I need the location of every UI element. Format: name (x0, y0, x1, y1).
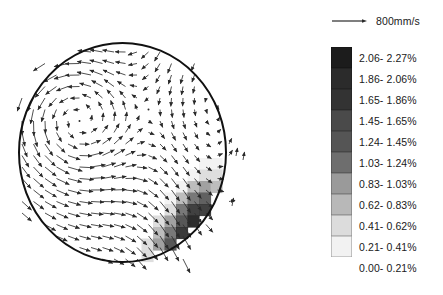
velocity-vector (114, 124, 119, 133)
velocity-vector (195, 167, 201, 174)
velocity-vector (137, 202, 148, 208)
velocity-vector (86, 105, 91, 110)
velocity-vector (115, 62, 125, 64)
velocity-vector (243, 152, 245, 160)
velocity-vector (126, 151, 136, 155)
velocity-vector (68, 179, 82, 183)
velocity-vector (45, 133, 49, 145)
velocity-vector (126, 248, 136, 255)
velocity-vector (206, 179, 212, 184)
legend-color-swatch (331, 68, 352, 89)
velocity-vector (95, 91, 103, 98)
legend-range-label: 0.83- 1.03% (359, 178, 417, 190)
velocity-vector (195, 179, 201, 187)
velocity-vector (141, 52, 148, 59)
velocity-vector (218, 141, 222, 144)
legend-row: 0.83- 1.03% (331, 173, 417, 194)
velocity-vector (103, 189, 116, 190)
velocity-vector (91, 236, 102, 239)
velocity-vector (57, 133, 62, 142)
velocity-vector (232, 198, 234, 206)
velocity-vector (183, 213, 191, 225)
velocity-vector (149, 167, 158, 172)
velocity-vector (192, 75, 195, 82)
velocity-vector (116, 72, 126, 75)
velocity-vector (59, 98, 68, 103)
velocity-vector (195, 156, 200, 162)
velocity-vector (145, 98, 149, 101)
velocity-vector (160, 133, 165, 139)
velocity-vector (137, 248, 147, 258)
legend-row: 0.21- 0.41% (331, 236, 417, 257)
velocity-vector (45, 202, 56, 209)
velocity-vector (182, 87, 184, 95)
velocity-vector (128, 64, 137, 66)
velocity-vector (130, 85, 137, 87)
velocity-vector (104, 79, 114, 86)
velocity-vector (126, 138, 134, 144)
velocity-vector (206, 225, 213, 233)
legend-row: 0.62- 0.83% (331, 194, 417, 215)
velocity-vector (148, 109, 150, 111)
velocity-vector (137, 225, 147, 233)
velocity-vector (90, 70, 103, 75)
velocity-vector (91, 152, 103, 155)
velocity-vector (183, 190, 190, 200)
velocity-vector (91, 248, 102, 251)
arrow-group (17, 50, 244, 273)
velocity-vector (137, 179, 148, 182)
velocity-vector (45, 190, 57, 197)
velocity-vector (218, 117, 220, 121)
velocity-vector (195, 144, 200, 150)
pipe-boundary-circle (19, 43, 226, 262)
velocity-vector (195, 213, 202, 223)
velocity-vector (57, 167, 70, 174)
velocity-vector (137, 236, 147, 245)
velocity-vector (22, 167, 30, 178)
velocity-vector (91, 115, 92, 121)
velocity-vector (117, 81, 125, 86)
velocity-vector (183, 202, 191, 213)
velocity-vector (34, 190, 44, 198)
velocity-vector (80, 225, 92, 228)
velocity-vector (126, 236, 137, 242)
legend-color-swatch (331, 131, 352, 152)
velocity-vector (80, 83, 92, 86)
velocity-vector (126, 112, 127, 121)
legend-range-label: 2.06- 2.27% (359, 52, 417, 64)
velocity-vector (34, 167, 44, 177)
velocity-vector (160, 121, 163, 127)
velocity-vector (172, 190, 180, 201)
velocity-vector (103, 213, 115, 214)
velocity-vector (206, 156, 211, 159)
velocity-vector (17, 98, 22, 111)
velocity-vector (158, 98, 160, 105)
velocity-vector (82, 94, 91, 98)
velocity-vector (137, 155, 146, 156)
velocity-vector (33, 64, 45, 71)
legend-color-swatch (331, 236, 352, 257)
velocity-vector (45, 144, 53, 156)
velocity-vector (160, 156, 167, 163)
velocity-vector (149, 213, 159, 223)
legend-color-swatch (331, 47, 352, 68)
velocity-vector (183, 259, 190, 273)
velocity-vector (42, 110, 46, 122)
legend-row: 2.06- 2.27% (331, 47, 417, 68)
velocity-vector (229, 200, 235, 201)
vector-field-overlay (0, 0, 300, 295)
velocity-vector (114, 202, 126, 203)
velocity-vector (114, 213, 126, 215)
velocity-vector (137, 128, 143, 132)
velocity-vector (114, 236, 125, 240)
velocity-vector (80, 248, 91, 252)
legend-range-label: 0.00- 0.21% (359, 262, 417, 274)
velocity-vector (160, 213, 169, 225)
legend-color-swatch (331, 215, 352, 236)
velocity-vector (155, 64, 160, 73)
legend-row: 1.03- 1.24% (331, 152, 417, 173)
legend-range-label: 0.21- 0.41% (359, 241, 417, 253)
velocity-vector (68, 167, 82, 171)
legend-row: 1.24- 1.45% (331, 131, 417, 152)
velocity-vector (123, 101, 126, 110)
